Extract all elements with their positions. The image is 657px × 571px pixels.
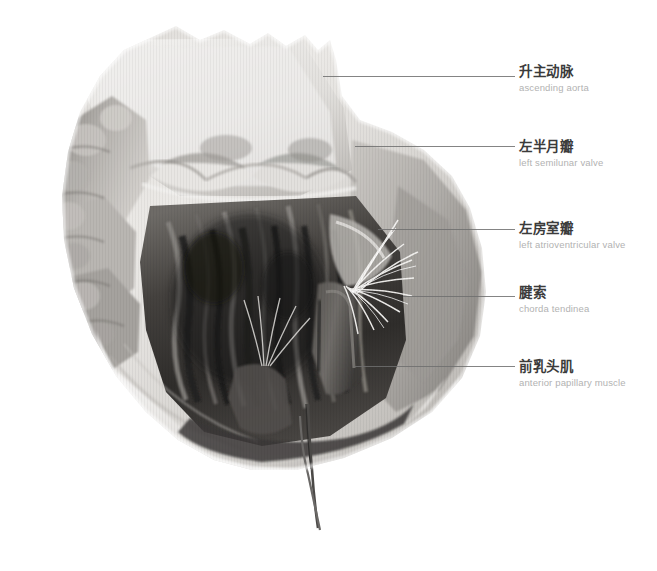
annotation-anterior-papillary-muscle: 前乳头肌 anterior papillary muscle	[519, 359, 626, 389]
annotation-label-en: chorda tendinea	[519, 303, 589, 315]
leader-line-left-semilunar-valve	[355, 146, 515, 147]
annotation-label-cn: 前乳头肌	[519, 359, 626, 374]
leader-line-ascending-aorta	[323, 76, 515, 77]
annotation-label-en: anterior papillary muscle	[519, 377, 626, 389]
leader-line-chorda-tendinea	[403, 296, 515, 297]
annotation-label-cn: 升主动脉	[519, 64, 589, 79]
specimen-photograph	[0, 0, 520, 571]
leader-line-left-atrioventricular-valve	[378, 229, 515, 230]
annotation-label-cn: 左房室瓣	[519, 221, 625, 236]
annotation-chorda-tendinea: 腱索 chorda tendinea	[519, 285, 589, 315]
annotation-label-en: left semilunar valve	[519, 157, 603, 169]
annotation-label-cn: 左半月瓣	[519, 139, 603, 154]
figure-canvas: 升主动脉 ascending aorta 左半月瓣 left semilunar…	[0, 0, 657, 571]
annotation-label-en: ascending aorta	[519, 82, 589, 94]
leader-line-anterior-papillary-muscle	[355, 366, 515, 367]
annotation-label-en: left atrioventricular valve	[519, 239, 625, 251]
annotation-left-semilunar-valve: 左半月瓣 left semilunar valve	[519, 139, 603, 169]
annotation-ascending-aorta: 升主动脉 ascending aorta	[519, 64, 589, 94]
annotation-label-cn: 腱索	[519, 285, 589, 300]
annotation-left-atrioventricular-valve: 左房室瓣 left atrioventricular valve	[519, 221, 625, 251]
